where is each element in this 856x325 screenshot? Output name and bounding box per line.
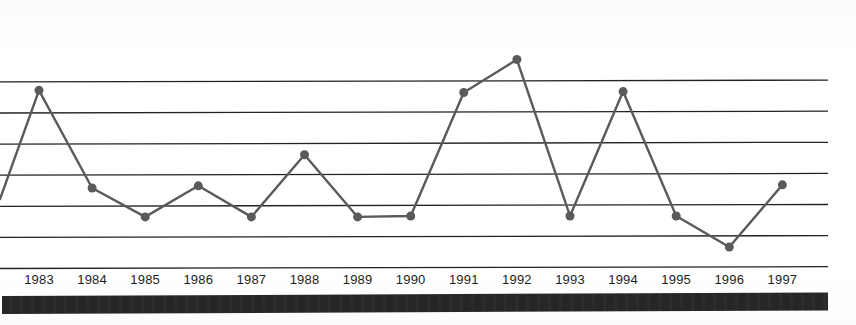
x-axis-tick-label-1988: 1988 xyxy=(275,272,335,287)
x-axis-labels: 1983198419851986198719881989199019911992… xyxy=(0,272,856,294)
x-axis-tick-label-1983: 1983 xyxy=(9,272,69,287)
data-point-marker[interactable]: 1988 xyxy=(300,150,309,159)
data-point-marker[interactable]: 1986 xyxy=(194,181,203,190)
data-point-marker[interactable]: 1997 xyxy=(778,180,787,189)
gridlines-group xyxy=(0,80,828,268)
data-markers-group: 1983198419851986198719881989199019911992… xyxy=(35,55,787,252)
data-point-marker[interactable]: 1985 xyxy=(141,212,150,221)
data-point-marker[interactable]: 1991 xyxy=(459,88,468,97)
x-axis-tick-label-1994: 1994 xyxy=(593,272,653,287)
data-point-marker[interactable]: 1987 xyxy=(247,212,256,221)
x-axis-tick-label-1991: 1991 xyxy=(434,272,494,287)
data-point-marker[interactable]: 1996 xyxy=(725,243,734,252)
data-point-marker[interactable]: 1994 xyxy=(619,87,628,96)
x-axis-tick-label-1992: 1992 xyxy=(487,272,547,287)
data-point-marker[interactable]: 1992 xyxy=(512,55,521,64)
data-point-marker[interactable]: 1983 xyxy=(35,86,44,95)
x-axis-tick-label-1997: 1997 xyxy=(752,272,812,287)
chart-root: 1983198419851986198719881989199019911992… xyxy=(0,0,856,325)
x-axis-tick-label-1995: 1995 xyxy=(646,272,706,287)
gridline xyxy=(0,236,828,238)
data-point-marker[interactable]: 1984 xyxy=(88,183,97,192)
gridline xyxy=(0,267,828,269)
gridline xyxy=(0,80,828,82)
data-point-marker[interactable]: 1993 xyxy=(566,211,575,220)
x-axis-tick-label-1987: 1987 xyxy=(221,272,281,287)
data-point-marker[interactable]: 1995 xyxy=(672,211,681,220)
footer-bar-texture xyxy=(2,292,828,314)
data-point-marker[interactable]: 1989 xyxy=(353,212,362,221)
data-series-group: 1983198419851986198719881989199019911992… xyxy=(0,55,787,252)
x-axis-tick-label-1993: 1993 xyxy=(540,272,600,287)
x-axis-tick-label-1996: 1996 xyxy=(699,272,759,287)
x-axis-tick-label-1986: 1986 xyxy=(168,272,228,287)
data-line xyxy=(0,60,782,248)
x-axis-tick-label-1990: 1990 xyxy=(381,272,441,287)
data-point-marker[interactable]: 1990 xyxy=(406,211,415,220)
x-axis-tick-label-1985: 1985 xyxy=(115,272,175,287)
gridline xyxy=(0,173,828,175)
gridline xyxy=(0,142,828,144)
x-axis-tick-label-1984: 1984 xyxy=(62,272,122,287)
gridline xyxy=(0,111,828,113)
x-axis-tick-label-1989: 1989 xyxy=(328,272,388,287)
footer-black-bar xyxy=(2,292,828,314)
